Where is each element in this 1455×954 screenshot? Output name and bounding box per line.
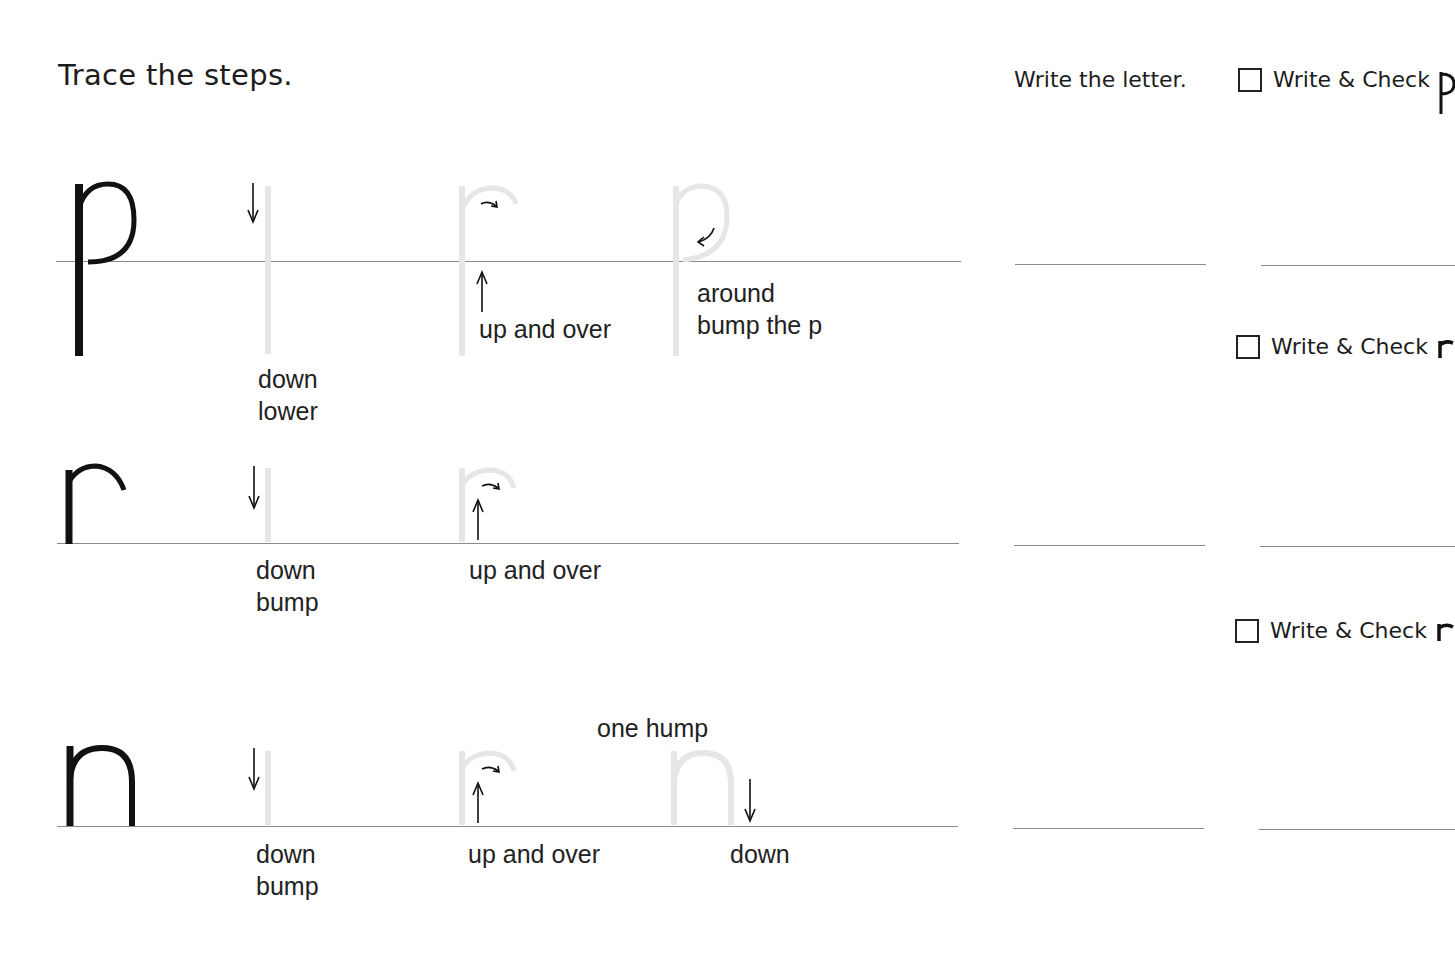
write-check-n: Write & Check xyxy=(1235,618,1427,643)
step-label-p-2: up and over xyxy=(479,313,611,345)
write-check-p: Write & Check xyxy=(1238,67,1430,92)
mini-letter-n-icon xyxy=(1436,622,1455,642)
write-line-n-2[interactable] xyxy=(1259,829,1455,830)
write-line-r-1[interactable] xyxy=(1014,545,1205,546)
checkbox-r[interactable] xyxy=(1236,335,1260,359)
mini-letter-r-icon xyxy=(1437,339,1455,359)
step-label-n-1: down bump xyxy=(256,838,319,902)
model-letter-r xyxy=(60,460,140,550)
step-label-r-2: up and over xyxy=(469,554,601,586)
write-line-p-1[interactable] xyxy=(1015,264,1206,265)
trace-stroke-r-1 xyxy=(240,462,280,547)
write-check-label: Write & Check xyxy=(1270,618,1427,643)
write-check-label: Write & Check xyxy=(1271,334,1428,359)
note-one-hump: one hump xyxy=(597,712,708,744)
model-letter-n xyxy=(60,740,150,830)
step-label-p-3: around bump the p xyxy=(697,277,822,341)
step-label-r-1: down bump xyxy=(256,554,319,618)
step-label-n-3: down xyxy=(730,838,790,870)
write-line-p-2[interactable] xyxy=(1261,265,1455,266)
model-letter-p xyxy=(60,170,150,360)
write-check-r: Write & Check xyxy=(1236,334,1428,359)
step-label-p-1: down lower xyxy=(258,363,318,427)
write-line-r-2[interactable] xyxy=(1260,546,1455,547)
write-check-label: Write & Check xyxy=(1273,67,1430,92)
trace-stroke-r-2 xyxy=(450,462,530,547)
write-letter-header: Write the letter. xyxy=(1014,67,1187,92)
trace-stroke-n-1 xyxy=(240,745,280,830)
trace-stroke-n-3 xyxy=(665,745,765,830)
mini-letter-p-icon xyxy=(1438,70,1455,116)
trace-stroke-n-2 xyxy=(450,745,530,830)
worksheet-title: Trace the steps. xyxy=(58,58,293,92)
trace-stroke-p-1 xyxy=(240,180,280,360)
checkbox-n[interactable] xyxy=(1235,619,1259,643)
checkbox-p[interactable] xyxy=(1238,68,1262,92)
step-label-n-2: up and over xyxy=(468,838,600,870)
write-line-n-1[interactable] xyxy=(1013,828,1204,829)
